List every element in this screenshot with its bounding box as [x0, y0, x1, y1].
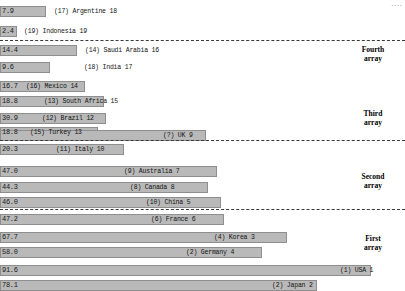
array-group-label: Thirdarray — [345, 109, 401, 127]
bar-value-label: 91.6 — [2, 265, 18, 276]
bar-category-label: (11) Italy 10 — [56, 144, 104, 155]
bar-value-label: 2.4 — [2, 26, 14, 37]
bar-category-label: (16) Mexico 14 — [26, 81, 78, 92]
bar-value-label: 78.1 — [2, 280, 18, 291]
bar-value-label: 44.3 — [2, 182, 18, 193]
bar-value-label: 47.2 — [2, 214, 18, 225]
bar-rect — [0, 265, 371, 276]
array-group-label: Fourtharray — [345, 45, 401, 63]
array-group-label-line1: Second — [345, 172, 401, 181]
bar-category-label: (10) China 5 — [146, 197, 190, 208]
bar-value-label: 20.3 — [2, 144, 18, 155]
group-separator — [0, 40, 405, 41]
bar-value-label: 47.0 — [2, 166, 18, 177]
corner-note: .... — [391, 2, 402, 8]
bar-category-label: (9) Australia 7 — [124, 166, 180, 177]
bar-category-label: (8) Canada 8 — [130, 182, 174, 193]
bar-category-label: (2) Germany 4 — [186, 247, 234, 258]
bar-value-label: 30.9 — [2, 113, 18, 124]
group-separator — [0, 209, 405, 210]
bar-category-label: (14) Saudi Arabia 16 — [85, 45, 159, 56]
bar-category-label: (6) France 6 — [151, 214, 195, 225]
array-group-label: Secondarray — [345, 172, 401, 190]
bar-category-label: (15) Turkey 13 — [30, 127, 82, 138]
bar-value-label: 16.7 — [2, 81, 18, 92]
bar-category-label: (1) USA 1 — [340, 265, 373, 276]
bar-category-label: (18) India 17 — [84, 62, 132, 73]
bar-value-label: 9.6 — [2, 62, 14, 73]
bar-value-label: 18.8 — [2, 96, 18, 107]
bar-value-label: 46.0 — [2, 197, 18, 208]
bar-value-label: 67.7 — [2, 232, 18, 243]
array-group-label: Firstarray — [345, 234, 401, 252]
array-group-label-line2: array — [345, 54, 401, 63]
array-group-label-line1: First — [345, 234, 401, 243]
bar-value-label: 14.4 — [2, 45, 18, 56]
bar-category-label: (19) Indonesia 19 — [24, 26, 87, 37]
array-group-label-line1: Fourth — [345, 45, 401, 54]
bar-category-label: (4) Korea 3 — [214, 232, 255, 243]
bar-category-label: (17) Argentine 18 — [54, 6, 117, 17]
bar-category-label: (13) South Africa 15 — [44, 96, 118, 107]
array-group-label-line2: array — [345, 243, 401, 252]
bar-rect — [0, 280, 317, 291]
array-group-label-line1: Third — [345, 109, 401, 118]
array-group-label-line2: array — [345, 181, 401, 190]
array-group-label-line2: array — [345, 118, 401, 127]
bar-rect — [0, 182, 208, 193]
bar-category-label: (2) Japan 2 — [272, 280, 313, 291]
bar-value-label: 7.9 — [2, 6, 14, 17]
bar-value-label: 18.8 — [2, 127, 18, 138]
bar-category-label: (12) Brazil 12 — [42, 113, 94, 124]
bar-value-label: 58.0 — [2, 247, 18, 258]
bar-category-label: (?) UK 9 — [163, 130, 193, 141]
bar-rect — [0, 166, 217, 177]
group-separator — [0, 140, 405, 141]
